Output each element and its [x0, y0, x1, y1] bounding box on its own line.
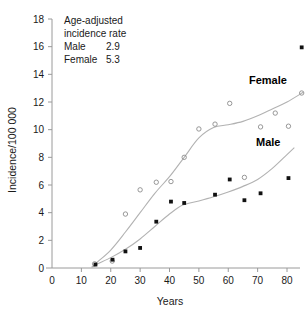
annotation-male-label: Male — [64, 41, 86, 52]
annotation-line-1: Age-adjusted — [64, 15, 123, 26]
x-tick-label: 80 — [281, 275, 293, 286]
chart-background — [0, 0, 308, 313]
data-point-male — [213, 193, 217, 197]
y-tick-label: 14 — [33, 69, 45, 80]
x-axis-title: Years — [157, 295, 183, 307]
data-point-male — [228, 178, 232, 182]
y-axis-title: Incidence/100 000 — [6, 107, 18, 193]
annotation-female-label: Female — [64, 54, 98, 65]
x-tick-label: 0 — [49, 275, 55, 286]
y-tick-label: 18 — [33, 14, 45, 25]
y-tick-label: 10 — [33, 124, 45, 135]
annotation-female-value: 5.3 — [106, 54, 120, 65]
data-point-male — [124, 250, 128, 254]
series-label-male: Male — [256, 136, 280, 148]
data-point-male — [182, 201, 186, 205]
x-tick-label: 40 — [164, 275, 176, 286]
data-point-male — [259, 191, 263, 195]
x-tick-label: 70 — [252, 275, 264, 286]
data-point-male — [287, 176, 291, 180]
annotation-line-2: incidence rate — [64, 28, 127, 39]
data-point-male — [243, 198, 247, 202]
y-tick-label: 0 — [38, 263, 44, 274]
x-tick-label: 10 — [76, 275, 88, 286]
y-tick-label: 4 — [38, 207, 44, 218]
data-point-male — [138, 246, 142, 250]
data-point-male — [94, 263, 98, 267]
y-tick-label: 8 — [38, 152, 44, 163]
y-tick-label: 12 — [33, 97, 45, 108]
data-point-male — [300, 45, 304, 49]
x-tick-label: 50 — [193, 275, 205, 286]
annotation-male-value: 2.9 — [106, 41, 120, 52]
x-tick-label: 20 — [105, 275, 117, 286]
data-point-male — [169, 200, 173, 204]
x-tick-label: 60 — [223, 275, 235, 286]
series-label-female: Female — [249, 74, 287, 86]
data-point-male — [154, 220, 158, 224]
data-point-male — [111, 258, 115, 262]
y-tick-label: 16 — [33, 41, 45, 52]
incidence-by-age-scatter-chart: 024681012141618 01020304050607080 Incide… — [0, 0, 308, 313]
y-tick-label: 2 — [38, 235, 44, 246]
chart-figure: 024681012141618 01020304050607080 Incide… — [0, 0, 308, 313]
x-tick-label: 30 — [135, 275, 147, 286]
y-tick-label: 6 — [38, 180, 44, 191]
